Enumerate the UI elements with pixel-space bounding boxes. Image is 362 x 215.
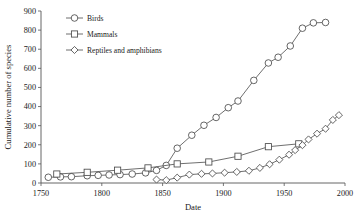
marker-diamond-2-2: [174, 174, 181, 181]
marker-diamond-2-0: [153, 176, 160, 183]
marker-circle-legend-0: [71, 15, 78, 22]
marker-circle-0-16: [235, 98, 242, 105]
marker-square-1-5: [206, 159, 212, 165]
y-tick-label: 800: [24, 26, 36, 35]
marker-circle-0-5: [106, 172, 113, 179]
marker-diamond-2-4: [198, 170, 205, 177]
x-tick-label: 1850: [154, 189, 170, 198]
chart-legend: BirdsMammalsReptiles and amphibians: [66, 14, 162, 55]
marker-circle-0-9: [153, 167, 160, 174]
legend-label: Reptiles and amphibians: [87, 46, 162, 55]
y-tick-label: 400: [24, 102, 36, 111]
x-tick-label: 1750: [33, 189, 49, 198]
species-accumulation-chart: 0100200300400500600700800900 17501800185…: [0, 0, 362, 215]
y-axis-ticks: 0100200300400500600700800900: [24, 7, 41, 188]
legend-label: Birds: [87, 14, 104, 23]
legend-label: Mammals: [87, 30, 117, 39]
marker-diamond-legend-2: [71, 46, 78, 53]
marker-square-1-2: [115, 167, 121, 173]
marker-circle-0-17: [251, 77, 258, 84]
marker-diamond-2-10: [266, 161, 273, 168]
marker-diamond-2-12: [286, 151, 293, 158]
marker-circle-0-15: [225, 104, 232, 111]
x-axis-title: Date: [185, 202, 201, 212]
x-tick-label: 1800: [94, 189, 110, 198]
marker-circle-0-11: [174, 145, 181, 152]
marker-circle-0-21: [299, 25, 306, 32]
marker-diamond-2-3: [186, 171, 193, 178]
marker-circle-0-23: [322, 19, 329, 26]
y-tick-label: 200: [24, 141, 36, 150]
marker-diamond-2-5: [209, 170, 216, 177]
marker-diamond-2-16: [313, 130, 320, 137]
y-tick-label: 300: [24, 122, 36, 131]
marker-square-1-0: [54, 171, 60, 177]
legend-item-birds: Birds: [66, 14, 104, 23]
y-tick-label: 500: [24, 83, 36, 92]
y-tick-label: 900: [24, 7, 36, 16]
marker-circle-0-19: [275, 54, 282, 61]
marker-circle-0-2: [68, 173, 75, 180]
y-tick-label: 0: [32, 179, 36, 188]
marker-diamond-2-13: [292, 147, 299, 154]
marker-circle-0-22: [310, 20, 317, 27]
y-tick-label: 100: [24, 160, 36, 169]
x-axis-ticks: 175018001850190019502000: [33, 183, 353, 198]
legend-item-reptiles-and-amphibians: Reptiles and amphibians: [66, 46, 162, 55]
marker-circle-0-20: [287, 43, 294, 50]
data-series-group: [45, 19, 342, 184]
x-tick-label: 1900: [215, 189, 231, 198]
marker-diamond-2-9: [256, 164, 263, 171]
marker-square-1-3: [145, 165, 151, 171]
marker-circle-0-12: [188, 132, 195, 139]
marker-square-1-1: [84, 169, 90, 175]
marker-square-1-4: [174, 161, 180, 167]
marker-diamond-2-7: [233, 168, 240, 175]
y-tick-label: 600: [24, 64, 36, 73]
marker-circle-0-4: [95, 172, 102, 179]
x-tick-label: 2000: [337, 189, 353, 198]
chart-container: 0100200300400500600700800900 17501800185…: [0, 0, 362, 215]
marker-diamond-2-8: [245, 167, 252, 174]
series-reptiles-and-amphibians: [153, 112, 342, 184]
marker-circle-0-0: [45, 174, 52, 181]
marker-square-1-6: [235, 153, 241, 159]
marker-circle-0-13: [201, 122, 208, 129]
marker-square-1-7: [265, 144, 271, 150]
marker-square-legend-1: [71, 31, 77, 37]
y-axis-title: Cumulative number of species: [3, 44, 13, 149]
marker-circle-0-18: [265, 60, 272, 67]
marker-circle-0-14: [213, 114, 220, 121]
y-tick-label: 700: [24, 45, 36, 54]
x-tick-label: 1950: [276, 189, 292, 198]
legend-item-mammals: Mammals: [66, 30, 117, 39]
marker-diamond-2-6: [221, 169, 228, 176]
marker-diamond-2-11: [276, 156, 283, 163]
marker-circle-0-7: [129, 171, 136, 178]
marker-diamond-2-19: [335, 112, 342, 119]
